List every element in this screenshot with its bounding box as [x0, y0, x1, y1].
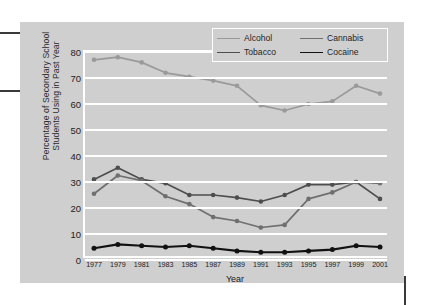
x-tick-label: 1993: [277, 260, 293, 269]
data-point: [282, 250, 287, 255]
series-cocaine: [92, 242, 383, 255]
legend-swatch-cocaine: [300, 52, 323, 53]
y-axis-title: Percentage of Secondary School Students …: [37, 1, 65, 191]
series-tobacco: [92, 165, 383, 203]
x-tick-label: 1995: [301, 260, 317, 269]
data-point: [354, 243, 359, 248]
x-tick-label: 1985: [182, 260, 198, 269]
data-point: [306, 248, 311, 253]
data-point: [115, 242, 120, 247]
x-tick-label: 1999: [348, 260, 364, 269]
data-point: [235, 248, 240, 253]
data-point: [259, 199, 264, 204]
x-tick-label: 1987: [205, 260, 221, 269]
plot-inner: 01020304050607080 1977197919811983198519…: [85, 52, 387, 256]
data-point: [282, 193, 287, 198]
legend-label-tobacco: Tobacco: [244, 47, 276, 57]
data-point: [330, 182, 335, 187]
gridline: [85, 207, 387, 209]
legend-label-cannabis: Cannabis: [327, 33, 363, 43]
chart-legend: Alcohol Cannabis Tobacco Cocaine: [212, 28, 388, 62]
y-tick-label: 50: [70, 125, 81, 136]
gridline: [85, 77, 387, 79]
legend-entry-cannabis: Cannabis: [300, 33, 383, 43]
legend-swatch-cannabis: [300, 38, 323, 39]
legend-entry-tobacco: Tobacco: [217, 47, 300, 57]
y-tick-label: 20: [70, 203, 81, 214]
y-axis-title-text: Percentage of Secondary School Students …: [41, 32, 62, 161]
legend-swatch-alcohol: [217, 38, 240, 39]
y-tick-label: 70: [70, 73, 81, 84]
y-tick-label: 60: [70, 99, 81, 110]
y-tick-label: 80: [70, 47, 81, 58]
x-tick-label: 1981: [134, 260, 150, 269]
gridline: [85, 233, 387, 235]
gridline: [85, 181, 387, 183]
y-tick-label: 0: [76, 255, 81, 266]
crop-mark-bottom-right: [404, 276, 406, 305]
x-tick-label: 2001: [372, 260, 388, 269]
data-point: [187, 243, 192, 248]
legend-swatch-tobacco: [217, 52, 240, 53]
chart-page: Percentage of Secondary School Students …: [0, 0, 434, 305]
x-tick-label: 1997: [325, 260, 341, 269]
data-point: [187, 202, 192, 207]
data-point: [92, 58, 97, 63]
data-point: [259, 225, 264, 230]
chart-figure: Percentage of Secondary School Students …: [20, 22, 404, 283]
legend-label-cocaine: Cocaine: [327, 47, 359, 57]
data-point: [306, 197, 311, 202]
data-point: [187, 193, 192, 198]
data-point: [235, 219, 240, 224]
legend-label-alcohol: Alcohol: [244, 33, 272, 43]
data-point: [116, 165, 121, 170]
data-point: [258, 250, 263, 255]
data-point: [211, 78, 216, 83]
y-tick-label: 30: [70, 177, 81, 188]
data-point: [211, 246, 216, 251]
data-point: [211, 215, 216, 220]
data-point: [282, 108, 287, 113]
data-point: [330, 190, 335, 195]
data-point: [354, 84, 359, 89]
legend-entry-alcohol: Alcohol: [217, 33, 300, 43]
data-point: [330, 247, 335, 252]
data-point: [92, 191, 97, 196]
x-tick-label: 1977: [86, 260, 102, 269]
data-point: [163, 194, 168, 199]
plot-area: 01020304050607080 1977197919811983198519…: [83, 50, 387, 258]
data-point: [378, 91, 383, 96]
data-point: [116, 55, 121, 60]
data-point: [235, 84, 240, 89]
data-point: [378, 197, 383, 202]
data-point: [378, 245, 383, 250]
data-point: [306, 182, 311, 187]
gridline: [85, 129, 387, 131]
data-point: [282, 223, 287, 228]
data-point: [163, 245, 168, 250]
gridline: [85, 155, 387, 157]
y-tick-label: 40: [70, 151, 81, 162]
x-tick-label: 1989: [229, 260, 245, 269]
x-axis-title: Year: [83, 274, 387, 284]
data-point: [92, 246, 97, 251]
data-point: [163, 71, 168, 76]
x-tick-label: 1983: [158, 260, 174, 269]
x-tick-label: 1991: [253, 260, 269, 269]
data-point: [139, 60, 144, 65]
data-point: [211, 193, 216, 198]
y-tick-label: 10: [70, 229, 81, 240]
data-point: [116, 173, 121, 178]
x-tick-label: 1979: [110, 260, 126, 269]
gridline: [85, 103, 387, 105]
legend-entry-cocaine: Cocaine: [300, 47, 383, 57]
data-point: [235, 195, 240, 200]
data-point: [139, 243, 144, 248]
